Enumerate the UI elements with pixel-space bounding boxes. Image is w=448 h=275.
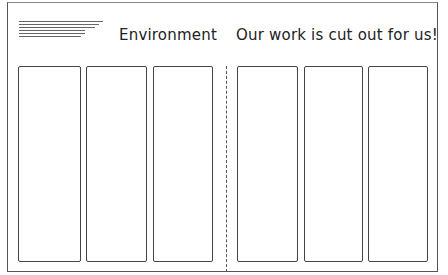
left-panel-3 (153, 66, 213, 262)
right-panel-2 (304, 66, 363, 262)
left-panel-1 (18, 66, 81, 262)
left-panel-2 (86, 66, 147, 262)
divider-dashed-line (226, 66, 227, 272)
text-lines-icon (19, 21, 103, 39)
right-title: Our work is cut out for us! (236, 26, 438, 44)
right-panel-1 (237, 66, 298, 262)
right-panel-3 (368, 66, 428, 262)
left-title: Environment (119, 26, 217, 44)
